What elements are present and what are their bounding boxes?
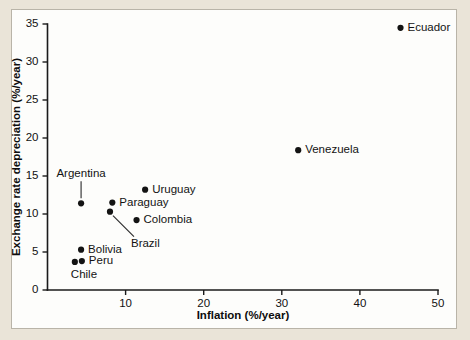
y-tick-label: 30 — [26, 55, 39, 67]
y-tick-label: 20 — [26, 131, 39, 143]
marker-peru[interactable] — [79, 258, 85, 264]
y-tick-label: 10 — [26, 207, 39, 219]
data-series-group: EcuadorVenezuelaUruguayParaguayArgentina… — [56, 21, 450, 280]
data-point-venezuela[interactable]: Venezuela — [295, 143, 359, 155]
y-tick-label: 25 — [26, 93, 39, 105]
data-point-colombia[interactable]: Colombia — [133, 213, 192, 225]
marker-argentina[interactable] — [78, 200, 84, 206]
marker-brazil[interactable] — [107, 209, 113, 215]
point-label-uruguay: Uruguay — [152, 183, 196, 195]
point-label-colombia: Colombia — [144, 213, 193, 225]
leader-line-brazil — [113, 216, 134, 237]
x-tick-label: 50 — [432, 297, 445, 309]
point-label-bolivia: Bolivia — [88, 243, 122, 255]
point-label-chile: Chile — [71, 268, 97, 280]
y-tick-label: 0 — [32, 283, 38, 295]
x-tick-label: 10 — [119, 297, 132, 309]
y-tick-group: 05101520253035 — [26, 17, 48, 295]
y-axis-group: 05101520253035 — [26, 17, 48, 295]
x-axis-title: Inflation (%/year) — [197, 309, 290, 321]
x-tick-group: 1020304050 — [119, 290, 444, 309]
data-point-ecuador[interactable]: Ecuador — [397, 21, 450, 33]
marker-bolivia[interactable] — [78, 247, 84, 253]
x-tick-label: 20 — [197, 297, 210, 309]
y-tick-label: 35 — [26, 17, 39, 29]
data-point-argentina[interactable]: Argentina — [56, 167, 106, 206]
marker-chile[interactable] — [72, 259, 78, 265]
point-label-paraguay: Paraguay — [119, 196, 168, 208]
data-point-uruguay[interactable]: Uruguay — [142, 183, 196, 195]
y-tick-label: 15 — [26, 169, 39, 181]
point-label-brazil: Brazil — [131, 237, 160, 249]
x-tick-label: 30 — [275, 297, 288, 309]
marker-ecuador[interactable] — [397, 25, 403, 31]
marker-paraguay[interactable] — [109, 200, 115, 206]
y-tick-label: 5 — [32, 245, 38, 257]
y-axis-title: Exchange rate depreciation (%/year) — [10, 58, 22, 256]
x-tick-label: 40 — [354, 297, 367, 309]
point-label-argentina: Argentina — [56, 167, 106, 179]
marker-uruguay[interactable] — [142, 187, 148, 193]
point-label-ecuador: Ecuador — [408, 21, 451, 33]
point-label-venezuela: Venezuela — [305, 143, 359, 155]
scatter-chart: 05101520253035 1020304050 EcuadorVenezue… — [0, 0, 470, 340]
data-point-paraguay[interactable]: Paraguay — [109, 196, 169, 208]
point-label-peru: Peru — [89, 254, 113, 266]
marker-colombia[interactable] — [133, 217, 139, 223]
data-point-peru[interactable]: Peru — [79, 254, 113, 266]
data-point-bolivia[interactable]: Bolivia — [78, 243, 123, 255]
x-axis-group: 1020304050 — [48, 290, 445, 309]
marker-venezuela[interactable] — [295, 147, 301, 153]
